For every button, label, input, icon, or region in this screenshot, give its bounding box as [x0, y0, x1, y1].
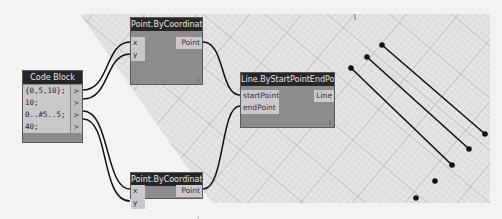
preview-point	[467, 147, 471, 151]
point-by-coordinates-node-top[interactable]: Point.ByCoordinates x y Point ⅰ	[130, 17, 203, 85]
code-line[interactable]: 40;	[23, 121, 70, 133]
output-port[interactable]: >	[70, 109, 82, 121]
preview-point	[414, 196, 418, 200]
output-port-point[interactable]: Point	[176, 37, 202, 49]
lacing-icon[interactable]: ⅰ	[197, 76, 199, 83]
preview-point	[349, 66, 353, 70]
output-port[interactable]: >	[70, 97, 82, 109]
output-port[interactable]: >	[70, 85, 82, 97]
input-port-start-point[interactable]: startPoint	[241, 90, 279, 102]
preview-point	[380, 43, 384, 47]
line-by-start-end-node[interactable]: Line.ByStartPointEndPoint startPoint end…	[240, 72, 335, 128]
node-title: Line.ByStartPointEndPoint	[241, 73, 334, 86]
output-port-line[interactable]: Line	[314, 90, 334, 102]
point-by-coordinates-node-bottom[interactable]: Point.ByCoordinates x y Point ⅰ	[130, 172, 203, 199]
input-port-x[interactable]: x	[131, 185, 145, 197]
input-port-end-point[interactable]: endPoint	[241, 102, 279, 114]
code-line[interactable]: 0..#5..5;	[23, 109, 70, 121]
input-port-y[interactable]: y	[131, 49, 145, 61]
lacing-icon[interactable]: ⅰ	[197, 215, 199, 219]
preview-point	[450, 163, 454, 167]
wire-cb3-to-bottom-x	[83, 111, 130, 189]
input-port-y[interactable]: y	[131, 197, 145, 209]
output-port[interactable]: >	[70, 121, 82, 133]
code-line[interactable]: {0,5,10};	[23, 85, 70, 97]
output-port-point[interactable]: Point	[176, 185, 202, 197]
lacing-icon[interactable]: ⅰ	[329, 119, 331, 126]
preview-point	[365, 55, 369, 59]
input-port-x[interactable]: x	[131, 37, 145, 49]
code-line[interactable]: 10;	[23, 97, 70, 109]
wire-cb4-to-bottom-y	[83, 119, 130, 201]
preview-point	[483, 132, 487, 136]
preview-point	[433, 179, 437, 183]
code-block-node[interactable]: Code Block {0,5,10}; 10; 0..#5..5; 40; >…	[22, 70, 83, 143]
node-title: Point.ByCoordinates	[131, 18, 202, 31]
node-title: Code Block	[23, 71, 82, 84]
